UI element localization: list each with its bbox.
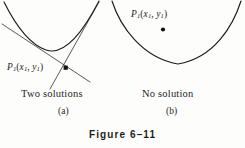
panel-b-tag: (b) [166, 107, 177, 117]
panel-a-parabola [4, 1, 99, 51]
panel-a-tag: (a) [58, 107, 69, 117]
figure-drawing-area [0, 0, 245, 148]
panel-a-caption: Two solutions [21, 89, 83, 100]
panel-b-point-label: P1(x1, y1) [131, 10, 167, 20]
figure-6-11: P1(x1, y1) P1(x1, y1) Two solutions No s… [0, 0, 245, 148]
panel-a-point-label-close-paren: ) [40, 62, 43, 72]
figure-number-caption: Figure 6–11 [89, 130, 156, 140]
panel-b-point-marker [161, 27, 165, 31]
panel-b-point-label-close-paren: ) [164, 9, 167, 19]
panel-a-tangent-line-1 [2, 24, 90, 82]
panel-a-tangent-line-2 [50, 2, 99, 89]
panel-a-point-marker [64, 66, 68, 70]
panel-b-caption: No solution [142, 89, 194, 100]
panel-a-point-label: P1(x1, y1) [7, 63, 43, 73]
